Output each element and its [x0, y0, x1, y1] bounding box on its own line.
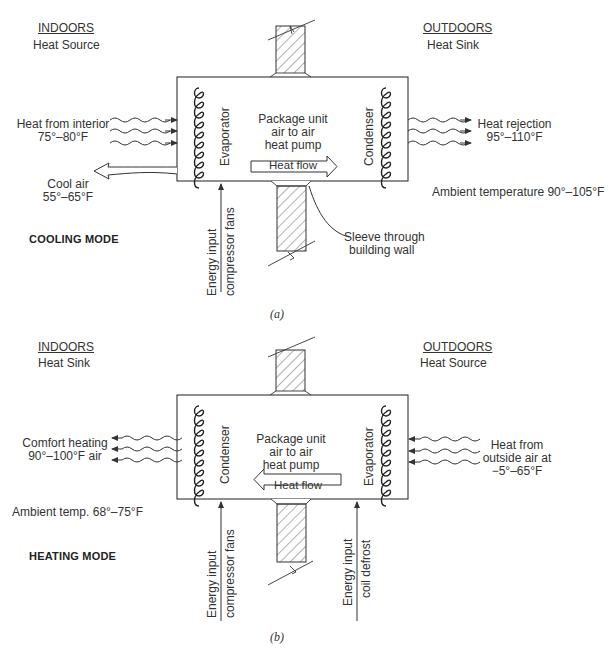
wall-top-a — [268, 20, 315, 77]
wall-bottom-a — [268, 181, 315, 266]
indoors-title-a: INDOORS — [38, 21, 88, 36]
outdoors-role-a: Heat Sink — [423, 38, 483, 53]
sleeve-line2: building wall — [349, 243, 414, 258]
figure-a-graphics — [94, 20, 471, 292]
cool-air-temp: 55°–65°F — [38, 190, 98, 205]
unit-line3-b: heat pump — [251, 458, 331, 473]
right-coil-label-b: Evaporator — [362, 427, 377, 486]
energy-input-label-b1: Energy input — [205, 551, 220, 618]
caption-b: (b) — [270, 630, 284, 645]
left-coil-label-b: Condenser — [218, 425, 233, 484]
wall-bottom-b — [268, 499, 313, 585]
energy-input-source-b1: compressor fans — [223, 529, 238, 618]
outdoors-title-a: OUTDOORS — [423, 21, 483, 36]
right-coil-label-a: Condenser — [362, 107, 377, 166]
unit-line3-a: heat pump — [253, 138, 333, 153]
indoors-role-b: Heat Sink — [38, 356, 88, 371]
left-coil-label-a: Evaporator — [218, 107, 233, 166]
mode-label-a: COOLING MODE — [29, 232, 119, 247]
indoors-title-b: INDOORS — [38, 340, 88, 355]
comfort-heating-temp: 90°–100°F air — [20, 449, 110, 464]
ambient-temp-b: Ambient temp. 68°–75°F — [12, 505, 143, 520]
cool-air-arrow — [94, 163, 177, 179]
heat-out-temp-a: 95°–110°F — [472, 130, 557, 145]
energy-input-source-b2: coil defrost — [359, 540, 374, 598]
heat-flow-label-b: Heat flow — [263, 478, 333, 493]
wall-top-b — [268, 337, 315, 395]
energy-input-source-a: compressor fans — [223, 207, 238, 296]
ambient-temp-a: Ambient temperature 90°–105°F — [432, 185, 604, 200]
indoors-role-a: Heat Source — [33, 38, 93, 53]
outdoors-title-b: OUTDOORS — [423, 340, 483, 355]
heat-in-temp-a: 75°–80°F — [13, 130, 113, 145]
mode-label-b: HEATING MODE — [29, 549, 116, 564]
energy-input-label-b2: Energy input — [341, 539, 356, 606]
heat-in-temp-b: −5°–65°F — [482, 464, 552, 479]
heat-flow-label-a: Heat flow — [258, 158, 328, 173]
caption-a: (a) — [270, 307, 284, 322]
energy-input-label-a: Energy input — [205, 229, 220, 296]
outdoors-role-b: Heat Source — [420, 356, 486, 371]
